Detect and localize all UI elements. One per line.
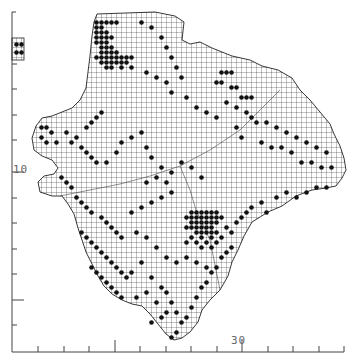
occurrence-dot [204, 240, 209, 245]
occurrence-dot [104, 35, 109, 40]
occurrence-dot [204, 280, 209, 285]
occurrence-dot [214, 115, 219, 120]
occurrence-dot [199, 245, 204, 250]
occurrence-dot [194, 225, 199, 230]
occurrence-dot [94, 245, 99, 250]
occurrence-dot [189, 210, 194, 215]
occurrence-dot [164, 80, 169, 85]
occurrence-dot [279, 145, 284, 150]
occurrence-dot [194, 260, 199, 265]
occurrence-dot [44, 140, 49, 145]
occurrence-dot [234, 125, 239, 130]
occurrence-dot [89, 265, 94, 270]
distribution-map [0, 0, 354, 358]
occurrence-dot [284, 130, 289, 135]
occurrence-dot [99, 55, 104, 60]
occurrence-dot [104, 160, 109, 165]
occurrence-dot [44, 125, 49, 130]
occurrence-dot [74, 135, 79, 140]
occurrence-dot [134, 295, 139, 300]
occurrence-dot [219, 255, 224, 260]
occurrence-dot [184, 255, 189, 260]
occurrence-dot [89, 155, 94, 160]
occurrence-dot [129, 55, 134, 60]
occurrence-dot [139, 260, 144, 265]
occurrence-dot [214, 80, 219, 85]
occurrence-dot [79, 145, 84, 150]
occurrence-dot [154, 245, 159, 250]
occurrence-dot [124, 55, 129, 60]
occurrence-dot [314, 145, 319, 150]
occurrence-dot [19, 50, 24, 55]
occurrence-dot [99, 20, 104, 25]
occurrence-dot [209, 270, 214, 275]
occurrence-dot [94, 40, 99, 45]
occurrence-dot [209, 220, 214, 225]
occurrence-dot [204, 110, 209, 115]
occurrence-dot [144, 180, 149, 185]
land-region [0, 0, 354, 358]
occurrence-dot [59, 175, 64, 180]
occurrence-dot [144, 290, 149, 295]
occurrence-dot [144, 70, 149, 75]
occurrence-dot [14, 42, 19, 47]
occurrence-dot [249, 205, 254, 210]
occurrence-dot [139, 20, 144, 25]
occurrence-dot [79, 230, 84, 235]
occurrence-dot [144, 235, 149, 240]
occurrence-dot [109, 260, 114, 265]
occurrence-dot [324, 150, 329, 155]
occurrence-dot [194, 105, 199, 110]
occurrence-dot [274, 125, 279, 130]
occurrence-dot [104, 30, 109, 35]
occurrence-dot [99, 40, 104, 45]
occurrence-dot [64, 130, 69, 135]
occurrence-dot [104, 50, 109, 55]
occurrence-dot [114, 50, 119, 55]
occurrence-dot [319, 165, 324, 170]
occurrence-dot [129, 135, 134, 140]
occurrence-dot [169, 55, 174, 60]
occurrence-dot [99, 50, 104, 55]
occurrence-dot [109, 45, 114, 50]
occurrence-dot [124, 60, 129, 65]
occurrence-dot [199, 285, 204, 290]
occurrence-dot [124, 275, 129, 280]
occurrence-dot [224, 250, 229, 255]
occurrence-dot [219, 235, 224, 240]
occurrence-dot [229, 70, 234, 75]
occurrence-dot [184, 95, 189, 100]
occurrence-dot [209, 215, 214, 220]
occurrence-dot [189, 165, 194, 170]
occurrence-dot [94, 55, 99, 60]
occurrence-dot [104, 280, 109, 285]
occurrence-dot [199, 220, 204, 225]
occurrence-dot [84, 235, 89, 240]
occurrence-dot [89, 210, 94, 215]
occurrence-dot [204, 220, 209, 225]
occurrence-dot [114, 55, 119, 60]
occurrence-dot [199, 175, 204, 180]
occurrence-dot [119, 270, 124, 275]
occurrence-dot [109, 20, 114, 25]
occurrence-dot [189, 215, 194, 220]
occurrence-dot [114, 20, 119, 25]
occurrence-dot [329, 165, 334, 170]
occurrence-dot [139, 130, 144, 135]
occurrence-dot [39, 125, 44, 130]
occurrence-dot [99, 60, 104, 65]
occurrence-dot [89, 240, 94, 245]
occurrence-dot [164, 255, 169, 260]
occurrence-dot [99, 275, 104, 280]
occurrence-dot [174, 65, 179, 70]
occurrence-dot [79, 200, 84, 205]
occurrence-dot [99, 25, 104, 30]
occurrence-dot [209, 230, 214, 235]
occurrence-dot [104, 45, 109, 50]
occurrence-dot [184, 225, 189, 230]
occurrence-dot [84, 150, 89, 155]
occurrence-dot [184, 315, 189, 320]
occurrence-dot [189, 235, 194, 240]
occurrence-dot [99, 250, 104, 255]
y-axis-label-10: 10 [13, 163, 28, 176]
